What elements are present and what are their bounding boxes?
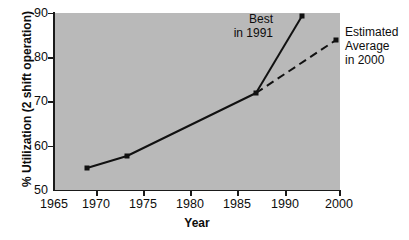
annotation-best-line1: Best — [213, 12, 273, 26]
annotation-best-in-1991: Best in 1991 — [213, 12, 273, 40]
series-estimated-line — [256, 40, 336, 93]
data-point-marker — [125, 154, 130, 159]
data-point-marker — [254, 91, 259, 96]
annotation-estimated-average-in-2000: Estimated Average in 2000 — [345, 25, 407, 67]
y-axis-title: % Utilization (2 shift operation) — [20, 0, 34, 199]
data-point-marker — [334, 38, 339, 43]
annotation-estimated-line2: Average — [345, 39, 407, 53]
data-point-marker — [300, 14, 305, 19]
annotation-estimated-line3: in 2000 — [345, 53, 407, 67]
annotation-estimated-line1: Estimated — [345, 25, 407, 39]
x-axis-title: Year — [54, 216, 340, 230]
annotation-best-line2: in 1991 — [213, 26, 273, 40]
chart-figure: 90 80 70 60 50 1965 1970 1975 1980 1985 … — [0, 0, 409, 240]
data-point-marker — [85, 166, 90, 171]
series-historical-line — [87, 93, 256, 168]
